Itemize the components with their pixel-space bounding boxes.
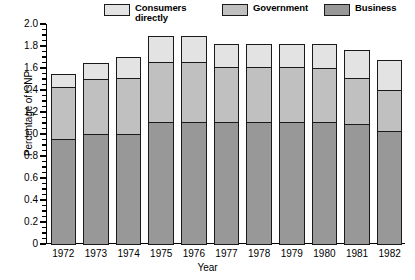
legend-item-consumers-directly: Consumers directly [104,2,222,22]
y-tick-major [40,177,46,178]
y-tick-label: 0.4 [24,195,38,205]
bar-segment-consumers-directly[interactable] [246,44,272,68]
y-tick-minor [42,194,46,195]
bar-group[interactable] [344,24,370,244]
y-tick-major [40,45,46,46]
y-tick-minor [42,227,46,228]
bar-segment-consumers-directly[interactable] [83,63,109,81]
bar-group[interactable] [279,24,305,244]
y-tick-minor [42,161,46,162]
bar-group[interactable] [148,24,174,244]
x-axis-title: Year [0,262,415,273]
x-tick-label: 1972 [47,248,80,259]
x-tick-label: 1977 [210,248,243,259]
y-tick-minor [42,183,46,184]
bar-segment-consumers-directly[interactable] [377,60,403,91]
y-tick-minor [42,139,46,140]
x-tick-label: 1976 [178,248,211,259]
y-tick-minor [42,40,46,41]
y-tick-label: 0 [32,239,38,249]
bar-segment-business[interactable] [83,134,109,245]
x-tick-label: 1975 [145,248,178,259]
y-tick-label: 1.4 [24,85,38,95]
bar-segment-business[interactable] [148,122,174,245]
y-tick-label: 0.2 [24,217,38,227]
bar-segment-consumers-directly[interactable] [312,44,338,70]
y-tick-minor [42,150,46,151]
bar-segment-consumers-directly[interactable] [148,36,174,63]
bar-segment-business[interactable] [279,122,305,245]
y-tick-major [40,133,46,134]
bar-segment-business[interactable] [377,131,403,246]
bar-segment-consumers-directly[interactable] [214,44,240,68]
bar-segment-business[interactable] [181,122,207,245]
bar-segment-business[interactable] [51,138,77,245]
y-tick-label: 2.0 [24,19,38,29]
y-tick-label: 1.2 [24,107,38,117]
x-tick-label: 1980 [308,248,341,259]
y-tick-minor [42,188,46,189]
y-tick-minor [42,166,46,167]
y-tick-major [40,243,46,244]
y-tick-label: 1.8 [24,41,38,51]
bar-segment-government[interactable] [246,67,272,123]
bar-segment-consumers-directly[interactable] [51,74,77,89]
y-tick-label: 0.6 [24,173,38,183]
bar-segment-government[interactable] [214,67,240,123]
bar-segment-business[interactable] [344,124,370,245]
bar-segment-consumers-directly[interactable] [279,44,305,68]
bar-segment-consumers-directly[interactable] [344,50,370,79]
bar-group[interactable] [83,24,109,244]
bar-segment-business[interactable] [214,122,240,245]
y-tick-major [40,67,46,68]
y-tick-major [40,199,46,200]
y-tick-minor [42,117,46,118]
bar-segment-business[interactable] [246,122,272,245]
y-tick-minor [42,56,46,57]
legend-label-government: Government [253,2,308,13]
bar-segment-consumers-directly[interactable] [116,57,142,79]
y-tick-minor [42,216,46,217]
bar-segment-consumers-directly[interactable] [181,36,207,63]
y-tick-major [40,221,46,222]
y-axis-line [46,24,47,244]
y-tick-label: 0.8 [24,151,38,161]
y-tick-minor [42,238,46,239]
bar-segment-government[interactable] [312,68,338,123]
y-tick-minor [42,34,46,35]
y-tick-minor [42,84,46,85]
bar-segment-government[interactable] [83,79,109,135]
bar-segment-government[interactable] [279,67,305,123]
y-tick-minor [42,62,46,63]
bar-segment-government[interactable] [377,90,403,132]
bar-segment-business[interactable] [116,134,142,245]
figure-caption-sliver [8,274,408,280]
y-tick-minor [42,210,46,211]
x-tick-label: 1979 [275,248,308,259]
bar-group[interactable] [116,24,142,244]
bar-group[interactable] [246,24,272,244]
y-tick-label: 1.0 [24,129,38,139]
y-tick-minor [42,51,46,52]
bar-group[interactable] [181,24,207,244]
y-tick-label: 1.6 [24,63,38,73]
bar-segment-government[interactable] [51,87,77,140]
y-tick-minor [42,205,46,206]
x-tick-label: 1974 [112,248,145,259]
bar-segment-government[interactable] [181,61,207,123]
bar-group[interactable] [214,24,240,244]
bar-group[interactable] [312,24,338,244]
y-tick-minor [42,106,46,107]
legend-item-business: Business [324,2,409,16]
y-tick-major [40,111,46,112]
y-tick-minor [42,78,46,79]
y-tick-major [40,23,46,24]
bar-segment-business[interactable] [312,122,338,245]
x-tick-label: 1973 [80,248,113,259]
bar-segment-government[interactable] [116,78,142,135]
bar-group[interactable] [377,24,403,244]
bar-group[interactable] [51,24,77,244]
bar-segment-government[interactable] [148,61,174,123]
legend-item-government: Government [222,2,324,16]
bar-segment-government[interactable] [344,78,370,126]
